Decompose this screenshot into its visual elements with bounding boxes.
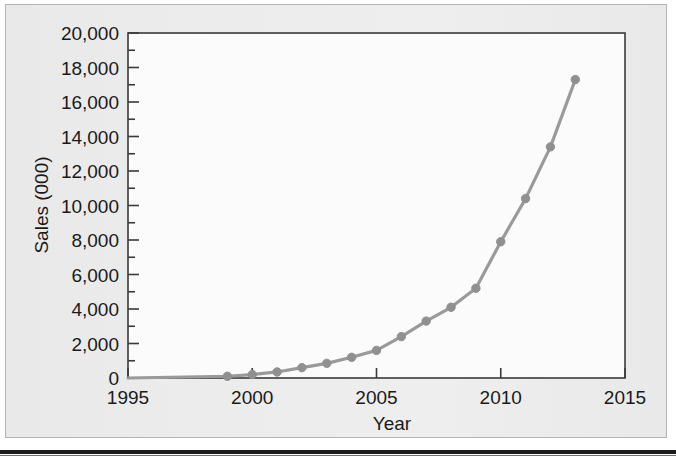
x-axis-tick-label: 2010 <box>480 387 522 408</box>
y-axis-title: Sales (000) <box>31 156 52 253</box>
line-chart: 20,00018,00016,00014,00012,00010,0008,00… <box>0 0 676 463</box>
y-axis-tick-label: 2,000 <box>71 334 119 355</box>
y-axis-tick-label: 20,000 <box>61 23 119 44</box>
plot-area-background <box>128 33 625 378</box>
data-point-marker <box>273 368 281 376</box>
data-point-marker <box>447 303 455 311</box>
x-axis-tick-label: 1995 <box>107 387 149 408</box>
data-point-marker <box>422 317 430 325</box>
data-point-marker <box>347 353 355 361</box>
data-point-marker <box>248 370 256 378</box>
y-axis-tick-labels: 20,00018,00016,00014,00012,00010,0008,00… <box>61 23 119 389</box>
data-point-marker <box>571 75 579 83</box>
y-axis-tick-label: 12,000 <box>61 161 119 182</box>
y-axis-tick-label: 18,000 <box>61 58 119 79</box>
figure-root: 20,00018,00016,00014,00012,00010,0008,00… <box>0 0 676 463</box>
y-axis-tick-label: 8,000 <box>71 230 119 251</box>
y-axis-tick-label: 16,000 <box>61 92 119 113</box>
x-axis-tick-label: 2015 <box>604 387 646 408</box>
data-point-marker <box>323 359 331 367</box>
data-point-marker <box>298 363 306 371</box>
data-point-marker <box>472 284 480 292</box>
x-axis-tick-labels: 19952000200520102015 <box>107 387 646 408</box>
x-axis-tick-label: 2000 <box>231 387 273 408</box>
x-axis-title: Year <box>373 413 412 434</box>
y-axis-tick-label: 0 <box>108 368 119 389</box>
data-point-marker <box>546 143 554 151</box>
data-point-marker <box>521 194 529 202</box>
bottom-rule <box>0 450 676 454</box>
data-point-marker <box>497 238 505 246</box>
x-axis-tick-label: 2005 <box>355 387 397 408</box>
bottom-rule-thin <box>0 455 676 456</box>
data-point-marker <box>397 332 405 340</box>
y-axis-tick-label: 14,000 <box>61 127 119 148</box>
data-point-marker <box>372 346 380 354</box>
data-point-marker <box>223 372 231 380</box>
y-axis-tick-label: 6,000 <box>71 265 119 286</box>
y-axis-tick-label: 10,000 <box>61 196 119 217</box>
y-axis-tick-label: 4,000 <box>71 299 119 320</box>
